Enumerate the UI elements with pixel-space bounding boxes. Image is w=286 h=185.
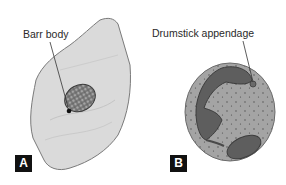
- illustration: Barr body Drumstick appendage: [0, 0, 286, 185]
- panel-b-cell: [185, 41, 275, 164]
- label-drumstick-appendage: Drumstick appendage: [152, 27, 254, 39]
- label-barr-body: Barr body: [23, 28, 69, 40]
- barr-body-dot: [67, 109, 72, 114]
- panel-a-cell: [31, 18, 131, 169]
- panel-badge-a: A: [15, 155, 32, 172]
- panel-badge-b: B: [170, 155, 187, 172]
- figure: Barr body Drumstick appendage A B: [0, 0, 286, 185]
